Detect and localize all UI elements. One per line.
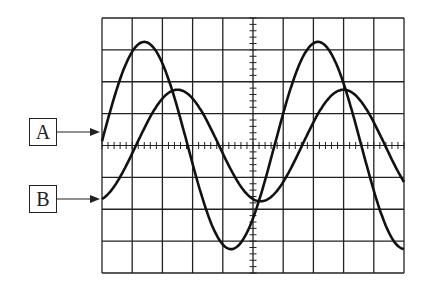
arrow-a — [57, 128, 100, 136]
label-a: A — [29, 118, 57, 146]
label-b-text: B — [36, 188, 49, 211]
center-axis-ticks — [102, 18, 404, 273]
oscilloscope-figure: A B — [0, 0, 424, 287]
label-a-text: A — [36, 121, 50, 144]
label-b: B — [29, 185, 57, 213]
arrow-b — [57, 195, 100, 203]
oscilloscope-screen — [0, 0, 424, 287]
